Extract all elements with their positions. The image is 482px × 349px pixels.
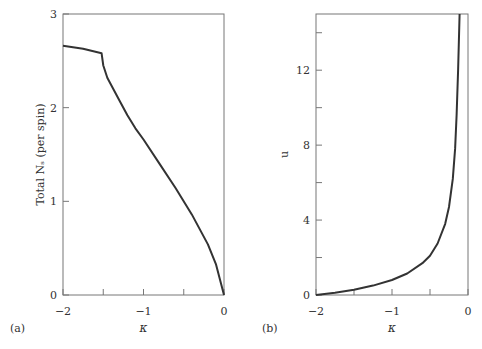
x-tick-label: −1 bbox=[135, 305, 151, 318]
y-tick-label: 0 bbox=[50, 289, 57, 302]
x-tick-label: 0 bbox=[465, 305, 472, 318]
y-tick-label: 2 bbox=[50, 102, 57, 115]
y-axis-label: Total Nₛ (per spin) bbox=[34, 103, 47, 205]
y-tick-label: 8 bbox=[303, 139, 310, 152]
x-tick-label: −2 bbox=[55, 305, 71, 318]
plot-frame bbox=[316, 14, 468, 295]
y-axis-label: u bbox=[278, 151, 291, 158]
x-tick-label: −2 bbox=[308, 305, 324, 318]
data-line bbox=[63, 46, 224, 295]
x-tick-label: −1 bbox=[384, 305, 400, 318]
x-axis-label: κ bbox=[139, 321, 148, 335]
y-tick-label: 3 bbox=[50, 8, 57, 21]
y-tick-label: 1 bbox=[50, 195, 57, 208]
figure: −2−100123κTotal Nₛ (per spin)(a)−2−10048… bbox=[0, 0, 482, 349]
x-axis-label: κ bbox=[387, 321, 396, 335]
panel-label: (b) bbox=[262, 322, 278, 335]
y-tick-label: 0 bbox=[303, 289, 310, 302]
y-tick-label: 4 bbox=[303, 214, 310, 227]
panel-label: (a) bbox=[10, 322, 25, 335]
plot-frame bbox=[63, 14, 224, 295]
y-tick-label: 12 bbox=[296, 64, 310, 77]
x-tick-label: 0 bbox=[221, 305, 228, 318]
data-line bbox=[316, 14, 460, 295]
